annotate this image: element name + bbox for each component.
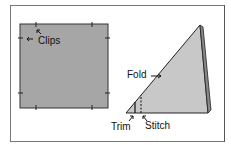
- trim-label: Trim: [111, 122, 131, 132]
- fabric-square: [20, 24, 108, 108]
- stitch-label: Stitch: [145, 121, 170, 131]
- clips-label: Clips: [38, 36, 60, 46]
- fold-label: Fold: [127, 70, 146, 80]
